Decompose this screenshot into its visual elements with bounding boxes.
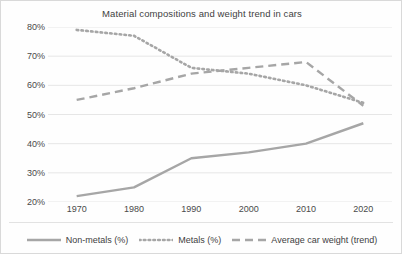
y-axis-tick-label: 50%: [5, 110, 45, 120]
plot-area: [48, 27, 392, 202]
y-axis-tick-label: 40%: [5, 139, 45, 149]
legend-item[interactable]: Non-metals (%): [27, 235, 129, 245]
chart-legend: Non-metals (%)Metals (%)Average car weig…: [1, 235, 402, 245]
gridlines: [48, 27, 392, 202]
x-axis-tick-label: 1970: [67, 204, 87, 214]
series-line: [77, 123, 364, 196]
series-lines: [77, 30, 364, 196]
legend-swatch-dotted-icon: [139, 235, 173, 245]
x-axis-tick-label: 1990: [181, 204, 201, 214]
y-axis-tick-label: 60%: [5, 80, 45, 90]
x-axis: 197019801990200020102020: [48, 204, 392, 220]
plot-svg: [48, 27, 392, 202]
chart-title: Material compositions and weight trend i…: [1, 8, 402, 19]
chart-container: Material compositions and weight trend i…: [0, 0, 402, 254]
legend-item[interactable]: Average car weight (trend): [232, 235, 377, 245]
y-axis-tick-label: 30%: [5, 168, 45, 178]
y-axis: 20%30%40%50%60%70%80%: [1, 27, 45, 202]
legend-label: Non-metals (%): [66, 235, 129, 245]
x-axis-tick-label: 2010: [296, 204, 316, 214]
legend-swatch-solid-icon: [27, 235, 61, 245]
x-axis-tick-label: 2000: [239, 204, 259, 214]
legend-item[interactable]: Metals (%): [139, 235, 221, 245]
legend-label: Average car weight (trend): [271, 235, 377, 245]
x-axis-tick-label: 1980: [124, 204, 144, 214]
legend-swatch-dashed-icon: [232, 235, 266, 245]
legend-divider: [9, 222, 393, 223]
y-axis-tick-label: 80%: [5, 22, 45, 32]
x-axis-tick-label: 2020: [353, 204, 373, 214]
legend-label: Metals (%): [178, 235, 221, 245]
y-axis-tick-label: 20%: [5, 197, 45, 207]
y-axis-tick-label: 70%: [5, 51, 45, 61]
series-line: [77, 62, 364, 106]
